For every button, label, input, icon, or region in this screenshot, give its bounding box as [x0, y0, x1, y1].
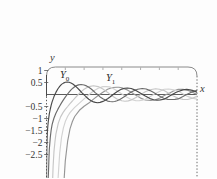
y-tick-label: −2.5: [25, 150, 42, 160]
y-tick-label: 0.5: [31, 78, 43, 88]
bessel-figure: 10.5−0.5−1−1.5−2−2.5 y x Y0 Y1: [0, 0, 217, 178]
y-tick-label: −2: [32, 138, 42, 148]
curve-label-y1: Y1: [106, 73, 115, 86]
series-Y1: [48, 85, 197, 179]
y-axis-label: y: [50, 53, 55, 64]
series-Y3: [58, 87, 197, 178]
y-tick-label: 1: [38, 66, 43, 76]
bessel-chart-canvas: 10.5−0.5−1−1.5−2−2.5: [0, 0, 217, 178]
y-tick-label: −1: [32, 114, 42, 124]
series-Y4: [64, 87, 197, 178]
x-axis-label: x: [200, 84, 205, 95]
curve-label-y1-sub: 1: [112, 78, 116, 86]
y-tick-label: −1.5: [25, 126, 42, 136]
curve-label-y0: Y0: [60, 70, 69, 83]
curve-label-y0-sub: 0: [66, 75, 70, 83]
y-tick-label: −0.5: [25, 102, 42, 112]
